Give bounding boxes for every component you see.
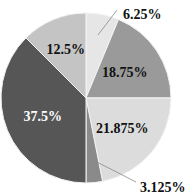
slice-label: 6.25% (123, 7, 162, 22)
slice-label: 3.125% (140, 180, 186, 193)
slice-label: 18.75% (102, 65, 148, 80)
slice-label: 21.875% (96, 121, 149, 136)
pie-chart: 6.25%18.75%21.875%3.125%37.5%12.5% (0, 0, 186, 193)
slice-label: 12.5% (47, 42, 86, 57)
slice-label: 37.5% (24, 109, 63, 124)
